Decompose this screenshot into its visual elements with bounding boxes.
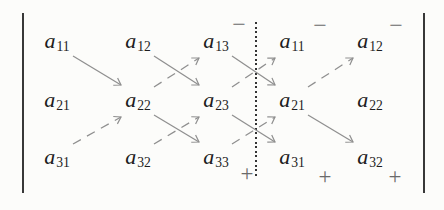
matrix-entry-r3c5: a32 <box>357 146 383 170</box>
matrix-entry-r1c3: a13 <box>203 30 229 54</box>
entry-subscript: 31 <box>291 155 305 170</box>
sarrus-rule-diagram: a11a12a13a11a12a21a22a23a21a22a31a32a33a… <box>0 0 444 210</box>
entry-base: a <box>125 87 136 112</box>
entry-subscript: 11 <box>291 39 304 54</box>
matrix-entry-r1c4: a11 <box>279 30 304 54</box>
entry-base: a <box>44 87 55 112</box>
entry-base: a <box>203 28 214 53</box>
determinant-bar-left <box>22 13 24 193</box>
entry-subscript: 31 <box>56 155 70 170</box>
minus-sign-3: − <box>389 13 403 37</box>
entry-base: a <box>44 144 55 169</box>
solid-diagonal-arrow-5 <box>232 115 275 142</box>
entry-base: a <box>279 144 290 169</box>
entry-subscript: 22 <box>369 98 383 113</box>
entry-base: a <box>357 144 368 169</box>
entry-base: a <box>279 87 290 112</box>
entry-subscript: 12 <box>137 39 151 54</box>
entry-subscript: 21 <box>291 98 305 113</box>
entry-subscript: 22 <box>137 98 151 113</box>
entry-base: a <box>125 28 136 53</box>
entry-base: a <box>125 144 136 169</box>
minus-sign-2: − <box>313 13 327 37</box>
dashed-antidiagonal-arrow-6 <box>308 58 353 87</box>
entry-base: a <box>44 28 55 53</box>
solid-diagonal-arrow-1 <box>73 56 121 85</box>
matrix-entry-r1c5: a12 <box>357 30 383 54</box>
matrix-entry-r3c4: a31 <box>279 146 305 170</box>
entry-base: a <box>357 28 368 53</box>
dashed-antidiagonal-arrow-5 <box>232 58 275 87</box>
matrix-entry-r2c1: a21 <box>44 89 70 113</box>
matrix-entry-r2c4: a21 <box>279 89 305 113</box>
dashed-antidiagonal-arrow-2 <box>154 117 199 144</box>
dashed-antidiagonal-arrow-1 <box>73 117 121 144</box>
entry-subscript: 32 <box>369 155 383 170</box>
entry-base: a <box>203 144 214 169</box>
matrix-entry-r2c5: a22 <box>357 89 383 113</box>
plus-sign-2: + <box>319 165 332 188</box>
minus-sign-1: − <box>232 12 246 36</box>
determinant-bar-right <box>423 13 425 193</box>
solid-diagonal-arrow-6 <box>308 115 353 142</box>
dashed-antidiagonal-arrow-3 <box>232 117 275 144</box>
entry-subscript: 33 <box>215 155 229 170</box>
entry-subscript: 12 <box>369 39 383 54</box>
solid-diagonal-arrow-2 <box>154 56 199 85</box>
solid-diagonal-arrow-3 <box>232 56 275 85</box>
matrix-entry-r1c2: a12 <box>125 30 151 54</box>
column-separator-dotted-line <box>255 22 257 177</box>
entry-subscript: 23 <box>215 98 229 113</box>
solid-diagonal-arrow-4 <box>154 115 199 142</box>
entry-base: a <box>279 28 290 53</box>
matrix-entry-r2c2: a22 <box>125 89 151 113</box>
plus-sign-3: + <box>389 165 402 188</box>
matrix-entry-r3c2: a32 <box>125 146 151 170</box>
entry-base: a <box>357 87 368 112</box>
entry-subscript: 11 <box>56 39 69 54</box>
matrix-entry-r1c1: a11 <box>44 30 69 54</box>
matrix-entry-r2c3: a23 <box>203 89 229 113</box>
entry-base: a <box>203 87 214 112</box>
entry-subscript: 21 <box>56 98 70 113</box>
plus-sign-1: + <box>241 162 254 185</box>
dashed-antidiagonal-arrow-4 <box>154 58 199 87</box>
entry-subscript: 32 <box>137 155 151 170</box>
matrix-entry-r3c3: a33 <box>203 146 229 170</box>
entry-subscript: 13 <box>215 39 229 54</box>
matrix-entry-r3c1: a31 <box>44 146 70 170</box>
